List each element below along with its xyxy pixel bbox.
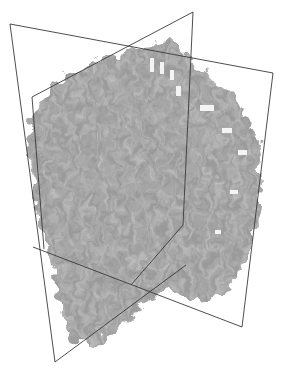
volume-texture xyxy=(28,42,262,345)
volume-render-viewport[interactable]: volume-render xyxy=(0,0,282,371)
volume-render-canvas xyxy=(0,0,282,371)
